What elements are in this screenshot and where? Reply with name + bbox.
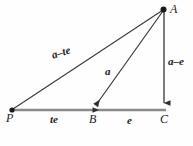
vertex-label-C: C [160, 113, 168, 125]
segment-AB [96, 11, 163, 105]
segment-label-te: te [50, 114, 58, 125]
vertex-dot-A [161, 7, 167, 13]
segment-label-a: a [105, 66, 111, 77]
vertex-label-B: B [89, 113, 96, 125]
vertex-label-A: A [170, 3, 177, 15]
vertex-label-P: P [6, 112, 13, 124]
segment-PA [13, 10, 163, 109]
segment-label-a-minus-e: a–e [168, 56, 184, 67]
segment-label-e: e [127, 115, 132, 126]
geometry-figure: P B C A a–te te a e a–e [0, 0, 193, 146]
